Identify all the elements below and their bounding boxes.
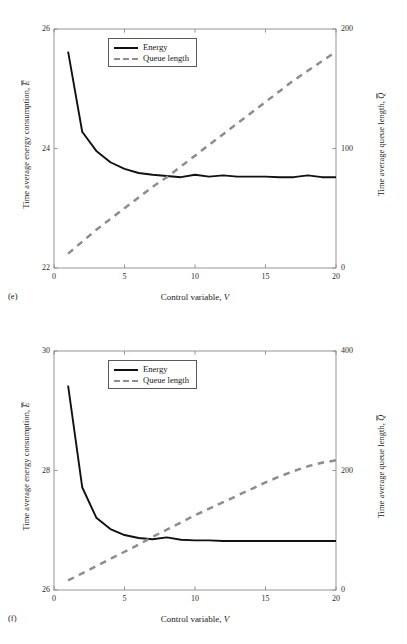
legend-item-energy: Energy (114, 42, 189, 53)
y-tick-left-f-2: 26 (16, 585, 50, 594)
legend-item-queue-length: Queue length (114, 53, 189, 64)
y-tick-left-e-2: 22 (16, 263, 50, 272)
x-tick-f-2: 10 (180, 594, 210, 603)
y-tick-left-f-1: 28 (16, 466, 50, 475)
v-symbol: V (224, 614, 230, 624)
y-tick-left-e-1: 24 (16, 144, 50, 153)
legend-line-solid-icon (114, 43, 138, 51)
x-tick-e-0: 0 (39, 272, 69, 281)
y-tick-right-f-1: 200 (341, 466, 375, 475)
y-axis-label-right-e: Time average queue length, Q (377, 45, 386, 245)
x-tick-e-2: 10 (180, 272, 210, 281)
y-axis-label-right-f: Time average queue length, Q (377, 367, 386, 567)
v-symbol: V (224, 292, 230, 302)
q-bar-symbol: Q (377, 415, 386, 421)
legend-label-queue-length: Queue length (143, 53, 189, 64)
x-tick-f-0: 0 (39, 594, 69, 603)
legend-line-solid-icon (114, 365, 138, 373)
x-tick-e-4: 20 (321, 272, 351, 281)
y-tick-right-f-2: 0 (341, 585, 375, 594)
y-tick-right-f-0: 400 (341, 346, 375, 355)
y-tick-left-e-0: 26 (16, 24, 50, 33)
chart-panel-e: Time average energy consumption, E Time … (0, 0, 407, 322)
panel-tag-f: (f) (8, 613, 17, 623)
e-bar-symbol: E (22, 402, 31, 407)
y-tick-left-f-0: 30 (16, 346, 50, 355)
panel-tag-e: (e) (8, 291, 18, 301)
legend-line-dashed-icon (114, 54, 138, 62)
y-tick-right-e-2: 0 (341, 263, 375, 272)
x-tick-f-1: 5 (110, 594, 140, 603)
x-tick-f-4: 20 (321, 594, 351, 603)
legend-item-queue-length: Queue length (114, 375, 189, 386)
chart-panel-f: Time average energy consumption, E Time … (0, 322, 407, 644)
x-axis-label-e: Control variable, V (54, 292, 336, 302)
y-tick-right-e-0: 200 (341, 24, 375, 33)
x-tick-e-1: 5 (110, 272, 140, 281)
x-tick-e-3: 15 (251, 272, 281, 281)
legend-e: Energy Queue length (108, 38, 197, 67)
x-tick-f-3: 15 (251, 594, 281, 603)
x-axis-label-f: Control variable, V (54, 614, 336, 624)
legend-f: Energy Queue length (108, 360, 197, 389)
e-bar-symbol: E (22, 80, 31, 85)
y-tick-right-e-1: 100 (341, 144, 375, 153)
legend-item-energy: Energy (114, 364, 189, 375)
legend-line-dashed-icon (114, 376, 138, 384)
q-bar-symbol: Q (377, 93, 386, 99)
figure-page: Time average energy consumption, E Time … (0, 0, 407, 644)
legend-label-energy: Energy (143, 364, 168, 375)
legend-label-energy: Energy (143, 42, 168, 53)
legend-label-queue-length: Queue length (143, 375, 189, 386)
